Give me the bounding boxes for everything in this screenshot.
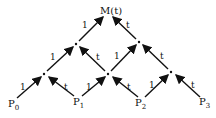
- edge-e-m: [113, 17, 136, 39]
- edge-weight: t: [191, 81, 195, 90]
- edge-weight: 1: [50, 53, 56, 62]
- edge-p3-c: [176, 75, 200, 97]
- node-b: [107, 73, 109, 75]
- result-label: M(t): [100, 6, 122, 16]
- node-e: [138, 41, 140, 43]
- de-casteljau-diagram: M(t) P0 P1 P2 P3 1 t 1 t 1 t 1 t 1 t 1 t: [0, 0, 216, 118]
- point-label-p0: P0: [8, 99, 19, 112]
- edge-weight: 1: [86, 83, 92, 92]
- node-c: [170, 71, 172, 73]
- edge-weight: t: [127, 83, 131, 92]
- node-a: [43, 73, 45, 75]
- edge-weight: 1: [149, 81, 155, 90]
- edge-b-d: [80, 47, 105, 71]
- diagram-graph: [0, 0, 216, 118]
- edge-weight: t: [96, 53, 100, 62]
- point-label-p2: P2: [135, 98, 146, 111]
- edge-weight: t: [160, 52, 164, 61]
- edge-weight: t: [126, 21, 130, 30]
- edge-weight: 1: [114, 52, 120, 61]
- edge-weight: 1: [20, 83, 26, 92]
- point-label-p3: P3: [199, 97, 210, 110]
- node-d: [75, 43, 77, 45]
- point-label-p1: P1: [73, 97, 84, 110]
- edge-c-e: [143, 45, 168, 69]
- edge-weight: t: [64, 83, 68, 92]
- edge-p1-a: [49, 77, 74, 96]
- edge-p2-b: [113, 77, 138, 97]
- edge-weight: 1: [82, 21, 88, 30]
